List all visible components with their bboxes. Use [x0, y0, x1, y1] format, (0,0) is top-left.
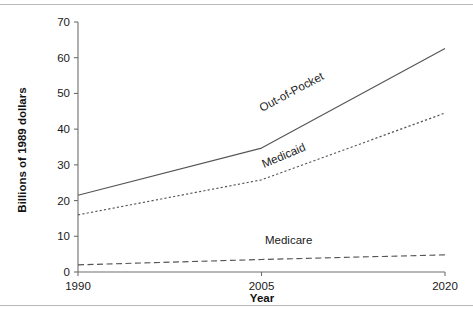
- y-axis-title: Billions of 1989 dollars: [16, 87, 28, 212]
- series-label-medicare: Medicare: [265, 234, 312, 246]
- y-tick-label: 20: [57, 195, 70, 207]
- y-tick-label: 40: [57, 123, 70, 135]
- y-tick-label: 0: [64, 266, 70, 278]
- series-line-out-of-pocket: [78, 48, 445, 195]
- y-tick-label: 50: [57, 87, 70, 99]
- y-tick-label: 10: [57, 230, 70, 242]
- x-axis-ticks: 199020052020: [65, 272, 458, 292]
- series-line-medicare: [78, 255, 445, 265]
- series-label-out-of-pocket: Out-of-Pocket: [257, 69, 326, 113]
- data-series-group: [78, 48, 445, 264]
- y-tick-label: 30: [57, 159, 70, 171]
- x-tick-label: 1990: [65, 280, 91, 292]
- x-tick-label: 2005: [249, 280, 275, 292]
- x-axis-title: Year: [250, 292, 275, 304]
- line-chart-plot: 010203040506070 199020052020 Out-of-Pock…: [0, 0, 473, 313]
- x-tick-label: 2020: [432, 280, 458, 292]
- y-tick-label: 60: [57, 52, 70, 64]
- series-label-group: Out-of-PocketMedicaidMedicare: [257, 69, 326, 246]
- y-tick-label: 70: [57, 16, 70, 28]
- chart-figure: 010203040506070 199020052020 Out-of-Pock…: [0, 0, 473, 313]
- y-axis-ticks: 010203040506070: [57, 16, 78, 278]
